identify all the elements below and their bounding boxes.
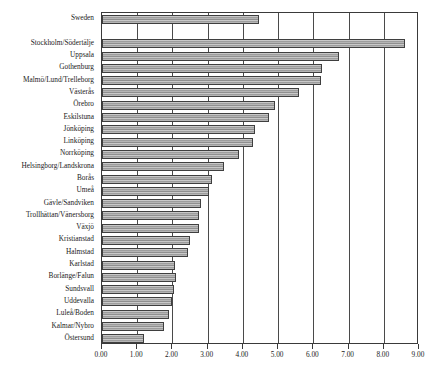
bar[interactable] [102, 236, 190, 245]
y-axis-label-14: Umeå [77, 185, 94, 195]
bar[interactable] [102, 39, 405, 48]
x-axis-tick-label-8: 8.00 [376, 349, 389, 360]
bar-row [102, 39, 419, 48]
y-axis-label-7: Örebro [73, 99, 94, 109]
y-axis-label-15: Gävle/Sandviken [44, 198, 94, 208]
bar[interactable] [102, 285, 174, 294]
y-axis-label-6: Västerås [69, 87, 94, 97]
y-axis-label-11: Norrköping [60, 148, 94, 158]
bar[interactable] [102, 199, 201, 208]
x-axis-tick-label-1: 1.00 [130, 349, 143, 360]
bar[interactable] [102, 248, 188, 257]
bar[interactable] [102, 113, 269, 122]
y-axis-label-24: Luleå/Boden [56, 308, 94, 318]
bar-row [102, 15, 419, 24]
y-axis-label-17: Växjö [76, 222, 94, 232]
bar-row [102, 273, 419, 282]
bar[interactable] [102, 101, 275, 110]
bar-row [102, 236, 419, 245]
bar-row [102, 150, 419, 159]
y-axis-label-12: Helsingborg/Landskrona [22, 161, 94, 171]
bar[interactable] [102, 15, 259, 24]
bar-row [102, 261, 419, 270]
y-axis-label-20: Karlstad [69, 259, 94, 269]
x-axis-tick-label-3: 3.00 [200, 349, 213, 360]
bar[interactable] [102, 297, 172, 306]
bar-row [102, 334, 419, 343]
x-axis-tick-label-4: 4.00 [235, 349, 248, 360]
bar[interactable] [102, 211, 199, 220]
x-axis-tick-label-2: 2.00 [165, 349, 178, 360]
y-axis-label-25: Kalmar/Nybro [51, 321, 94, 331]
bar[interactable] [102, 322, 164, 331]
bar[interactable] [102, 125, 255, 134]
bar-row [102, 125, 419, 134]
y-axis-label-22: Sundsvall [65, 284, 94, 294]
bar-row [102, 297, 419, 306]
bar-row [102, 224, 419, 233]
bar[interactable] [102, 224, 199, 233]
bar[interactable] [102, 76, 321, 85]
bar[interactable] [102, 150, 239, 159]
bar[interactable] [102, 52, 339, 61]
bar-row [102, 187, 419, 196]
x-axis-tick-label-0: 0.00 [95, 349, 108, 360]
bar[interactable] [102, 88, 299, 97]
y-axis-label-26: Östersund [64, 333, 94, 343]
x-axis-tick-label-9: 9.00 [412, 349, 425, 360]
bar-row [102, 285, 419, 294]
y-axis-label-2: Stockholm/Södertälje [31, 38, 94, 48]
bar-row [102, 52, 419, 61]
bar-chart: SwedenStockholm/SödertäljeUppsalaGothenb… [0, 0, 442, 372]
bar[interactable] [102, 138, 253, 147]
x-axis-tick-label-6: 6.00 [306, 349, 319, 360]
y-axis-category-labels: SwedenStockholm/SödertäljeUppsalaGothenb… [0, 12, 98, 344]
y-axis-label-5: Malmö/Lund/Trelleborg [23, 75, 94, 85]
y-axis-label-0: Sweden [71, 13, 94, 23]
y-axis-label-13: Borås [77, 173, 94, 183]
bar-row [102, 64, 419, 73]
bar-row [102, 199, 419, 208]
bar-row [102, 211, 419, 220]
y-axis-label-19: Halmstad [66, 247, 94, 257]
plot-area [101, 12, 418, 344]
y-axis-label-10: Linköping [64, 136, 94, 146]
bar-row [102, 322, 419, 331]
bar[interactable] [102, 187, 209, 196]
bar-row [102, 248, 419, 257]
y-axis-label-18: Kristianstad [59, 234, 94, 244]
bar-row [102, 113, 419, 122]
bar-row [102, 101, 419, 110]
bar-row [102, 175, 419, 184]
bar-series [102, 13, 417, 343]
bar[interactable] [102, 175, 212, 184]
bar-row [102, 76, 419, 85]
bar[interactable] [102, 162, 224, 171]
bar[interactable] [102, 334, 144, 343]
y-axis-label-8: Eskilstuna [64, 112, 94, 122]
y-axis-label-3: Uppsala [70, 50, 94, 60]
bar[interactable] [102, 64, 322, 73]
y-axis-label-4: Gothenburg [59, 62, 94, 72]
y-axis-label-16: Trollhättan/Vänersborg [26, 210, 94, 220]
bar-row [102, 88, 419, 97]
y-axis-label-21: Borlänge/Falun [49, 271, 94, 281]
y-axis-label-9: Jönköping [64, 124, 94, 134]
bar-row [102, 138, 419, 147]
x-axis-tick-labels: 0.001.002.003.004.005.006.007.008.009.00 [0, 349, 442, 363]
bar[interactable] [102, 261, 175, 270]
bar[interactable] [102, 273, 176, 282]
y-axis-label-23: Uddevalla [64, 296, 94, 306]
bar[interactable] [102, 310, 169, 319]
bar-row [102, 162, 419, 171]
bar-row [102, 310, 419, 319]
x-axis-tick-label-7: 7.00 [341, 349, 354, 360]
x-axis-tick-label-5: 5.00 [271, 349, 284, 360]
